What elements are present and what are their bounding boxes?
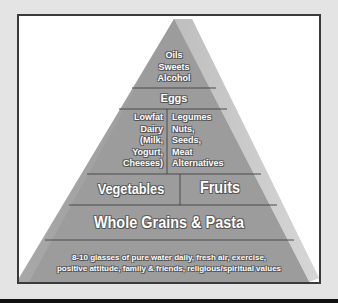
label-nuts: Nuts, [172,124,242,136]
tier-lowfat-dairy: Lowfat Dairy (Milk, Yogurt, Cheeses) [111,112,163,170]
label-base-line-2: positive attitude, family & friends, rel… [29,263,309,274]
tier-fruits: Fruits [190,179,250,196]
tier-eggs: Eggs [144,93,204,104]
label-alcohol: Alcohol [144,73,204,85]
diagram-frame: Oils Sweets Alcohol Eggs Lowfat Dairy (M… [17,14,321,284]
tier-base-lifestyle: 8-10 glasses of pure water daily, fresh … [29,252,309,274]
label-oils: Oils [144,50,204,62]
tier-vegetables: Vegetables [89,181,174,196]
tier-legumes-nuts: Legumes Nuts, Seeds, Meat Alternatives [172,112,242,170]
tier-whole-grains-pasta: Whole Grains & Pasta [67,214,271,231]
label-meat: Meat [172,147,242,159]
label-seeds: Seeds, [172,135,242,147]
label-milk: (Milk, [111,135,163,147]
tier-oils-sweets-alcohol: Oils Sweets Alcohol [144,50,204,85]
label-base-line-1: 8-10 glasses of pure water daily, fresh … [29,252,309,263]
label-lowfat: Lowfat [111,112,163,124]
label-alternatives: Alternatives [172,158,242,170]
label-cheeses: Cheeses) [111,158,163,170]
label-yogurt: Yogurt, [111,147,163,159]
bottom-edge-bar [0,299,338,303]
label-legumes: Legumes [172,112,242,124]
label-sweets: Sweets [144,62,204,74]
label-dairy: Dairy [111,124,163,136]
